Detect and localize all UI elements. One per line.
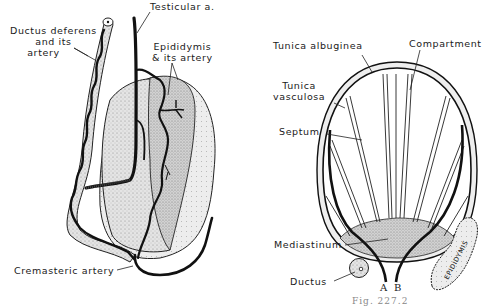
label-septum: Septum [279, 126, 320, 137]
label-compartment: Compartment [409, 38, 482, 49]
label-tunica-vasculosa: Tunica vasculosa [273, 80, 325, 102]
label-vessel-a: A [380, 282, 387, 293]
label-mediastinum: Mediastinum [274, 239, 342, 250]
ductus-section [350, 259, 369, 278]
label-testicular-artery: Testicular a. [150, 1, 215, 12]
label-line: and its [10, 36, 97, 47]
label-line: Tunica [273, 80, 325, 91]
label-tunica-albuginea: Tunica albuginea [273, 40, 363, 51]
label-cremasteric-artery: Cremasteric artery [14, 265, 114, 276]
label-line: Epididymis [152, 41, 213, 52]
label-line: & its artery [152, 52, 213, 63]
label-epididymis: Epididymis & its artery [152, 41, 213, 63]
label-ductus-deferens: Ductus deferens and its artery [10, 25, 97, 58]
label-line: Ductus deferens [10, 25, 97, 36]
label-line: artery [0, 47, 97, 58]
figure-caption: Fig. 227.2 [352, 296, 408, 306]
label-vessel-b: B [394, 282, 401, 293]
label-line: vasculosa [273, 91, 325, 102]
label-ductus: Ductus [290, 276, 327, 287]
testis-cross-section: EPIDIDYMIS [317, 62, 478, 290]
